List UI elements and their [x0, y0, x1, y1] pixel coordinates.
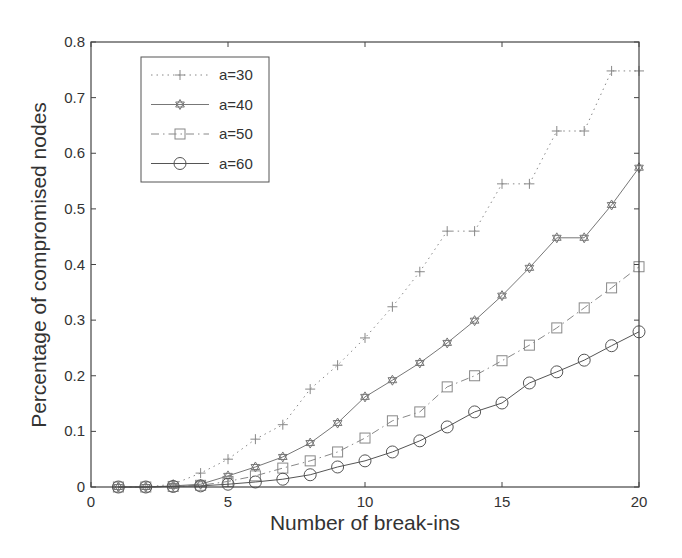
line-chart: 0510152000.10.20.30.40.50.60.70.8 Number…	[0, 0, 682, 558]
y-tick-label: 0.5	[64, 200, 85, 217]
legend-label: a=30	[219, 66, 253, 83]
x-tick-label: 20	[631, 493, 648, 510]
y-tick-label: 0.4	[64, 256, 85, 273]
x-tick-label: 10	[357, 493, 374, 510]
y-tick-label: 0.7	[64, 89, 85, 106]
legend-label: a=60	[219, 155, 253, 172]
x-tick-label: 0	[87, 493, 95, 510]
y-tick-label: 0.1	[64, 422, 85, 439]
y-tick-label: 0.3	[64, 311, 85, 328]
x-tick-label: 5	[224, 493, 232, 510]
x-tick-label: 15	[494, 493, 511, 510]
y-axis-label: Percentage of compromised nodes	[27, 102, 50, 428]
series-a-50	[113, 262, 644, 492]
legend-label: a=50	[219, 125, 253, 142]
legend: a=30a=40a=50a=60	[141, 57, 269, 182]
x-axis-label: Number of break-ins	[270, 511, 460, 534]
y-tick-label: 0	[77, 478, 85, 495]
legend-label: a=40	[219, 96, 253, 113]
y-tick-label: 0.6	[64, 144, 85, 161]
y-tick-label: 0.8	[64, 33, 85, 50]
y-tick-label: 0.2	[64, 367, 85, 384]
series-a-60	[112, 326, 645, 493]
series-a-40	[114, 163, 643, 492]
